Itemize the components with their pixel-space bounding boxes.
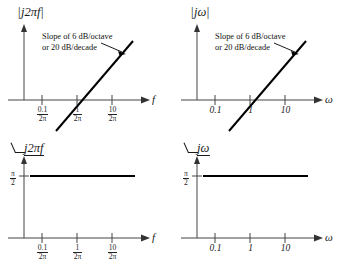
x-axis-title: ω	[325, 232, 333, 243]
x-axis-arrowhead	[141, 235, 150, 242]
y-value-denominator: 2	[183, 179, 189, 187]
angle-icon	[188, 142, 197, 153]
slope-annotation: Slope of 6 dB/octave or 20 dB/decade	[42, 31, 112, 54]
plot-title-magnitude-j2pif: j2πf	[18, 6, 44, 19]
x-axis-arrowhead	[314, 97, 323, 104]
x-tick-label-1: 0.1	[207, 244, 224, 254]
slope-annotation-line1: Slope of 6 dB/octave	[215, 31, 285, 42]
x-axis-arrowhead	[314, 235, 323, 242]
y-axis-arrowhead	[194, 156, 200, 164]
y-axis-value-label: π 2	[179, 169, 193, 187]
slope-annotation: Slope of 6 dB/octave or 20 dB/decade	[215, 31, 285, 54]
x-tick-label-1: 0.1 2π	[34, 244, 51, 261]
plot-title-phase-jomega: jω	[188, 142, 210, 156]
x-tick-label-3: 10 2π	[104, 244, 121, 261]
y-axis-arrowhead	[21, 24, 27, 32]
y-axis-arrowhead	[21, 156, 27, 164]
plot-canvas-magnitude-f	[0, 0, 172, 137]
y-axis-arrowhead	[194, 24, 200, 32]
x-tick-label-2: 1 2π	[69, 244, 86, 261]
bode-plot-figure: j2πf Slope of 6 dB/octave or 20 dB/decad…	[0, 0, 345, 275]
plot-title-text: j2πf	[21, 5, 40, 19]
plot-canvas-magnitude-omega	[173, 0, 345, 137]
plot-title-phase-j2pif: j2πf	[15, 142, 44, 156]
plot-title-text: jω	[197, 142, 210, 156]
plot-canvas-phase-f	[0, 138, 172, 275]
x-tick-label-3: 10	[277, 244, 294, 254]
x-tick-label-2: 1	[242, 244, 259, 254]
tick-2-denominator: 2π	[73, 253, 83, 261]
plot-title-text: j2πf	[24, 142, 44, 156]
tick-1-denominator: 2π	[37, 115, 49, 123]
tick-2-denominator: 2π	[73, 115, 83, 123]
x-tick-label-2: 1 2π	[69, 106, 86, 123]
plot-title-text: jω	[194, 5, 206, 19]
plot-title-magnitude-jomega: jω	[191, 6, 209, 19]
slope-annotation-line1: Slope of 6 dB/octave	[42, 31, 112, 42]
tick-1-denominator: 2π	[37, 253, 49, 261]
x-axis-title: f	[152, 232, 155, 243]
x-tick-label-2: 1	[242, 106, 259, 116]
x-tick-label-3: 10	[277, 106, 294, 116]
plot-canvas-phase-omega	[173, 138, 345, 275]
angle-icon	[15, 142, 24, 153]
x-tick-label-3: 10 2π	[104, 106, 121, 123]
x-tick-label-1: 0.1 2π	[34, 106, 51, 123]
panel-phase-j2pif: j2πf f π 2 0.1 2π 1 2π 10 2π	[0, 138, 172, 275]
y-axis-value-label: π 2	[6, 169, 20, 187]
tick-3-denominator: 2π	[108, 115, 118, 123]
panel-magnitude-jomega: jω Slope of 6 dB/octave or 20 dB/decade …	[173, 0, 345, 137]
x-axis-title: f	[152, 94, 155, 105]
y-value-denominator: 2	[10, 179, 16, 187]
x-tick-label-1: 0.1	[207, 106, 224, 116]
slope-annotation-line2: or 20 dB/decade	[42, 42, 112, 53]
x-axis-title: ω	[325, 94, 333, 105]
panel-phase-jomega: jω ω π 2 0.1 1 10	[173, 138, 345, 275]
slope-annotation-line2: or 20 dB/decade	[215, 42, 285, 53]
panel-magnitude-j2pif: j2πf Slope of 6 dB/octave or 20 dB/decad…	[0, 0, 172, 137]
x-axis-arrowhead	[141, 97, 150, 104]
tick-3-denominator: 2π	[108, 253, 118, 261]
